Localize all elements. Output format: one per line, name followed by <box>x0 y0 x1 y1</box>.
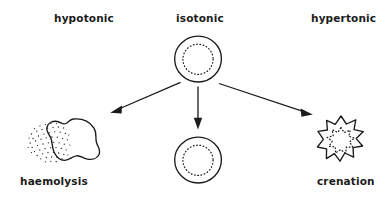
label-hypertonic: hypertonic <box>311 13 376 24</box>
crenation-cell <box>317 116 363 161</box>
label-haemolysis: haemolysis <box>20 176 88 187</box>
crenation-cell-outline <box>317 116 363 161</box>
isotonic-cell <box>175 36 222 82</box>
arrow-to-normal-cell-head <box>194 118 202 130</box>
haemolysis-cell-outline <box>47 119 100 160</box>
arrow-to-haemolysis <box>110 82 180 113</box>
diagram-canvas <box>0 0 391 200</box>
arrow-to-haemolysis-shaft <box>117 82 181 110</box>
arrow-to-crenation-head <box>301 109 313 117</box>
normal-cell-outline <box>175 137 222 183</box>
label-isotonic: isotonic <box>176 13 224 24</box>
arrow-to-haemolysis-head <box>110 105 122 113</box>
haemolysis-cell <box>28 119 100 163</box>
tonicity-diagram: hypotonic isotonic hypertonic haemolysis… <box>0 0 391 200</box>
arrow-to-normal-cell <box>194 87 202 130</box>
arrow-to-crenation-shaft <box>219 84 306 113</box>
label-hypotonic: hypotonic <box>54 13 114 24</box>
normal-cell <box>175 137 222 183</box>
arrow-to-crenation <box>219 84 313 117</box>
isotonic-cell-outline <box>175 36 222 82</box>
label-crenation: crenation <box>317 176 375 187</box>
